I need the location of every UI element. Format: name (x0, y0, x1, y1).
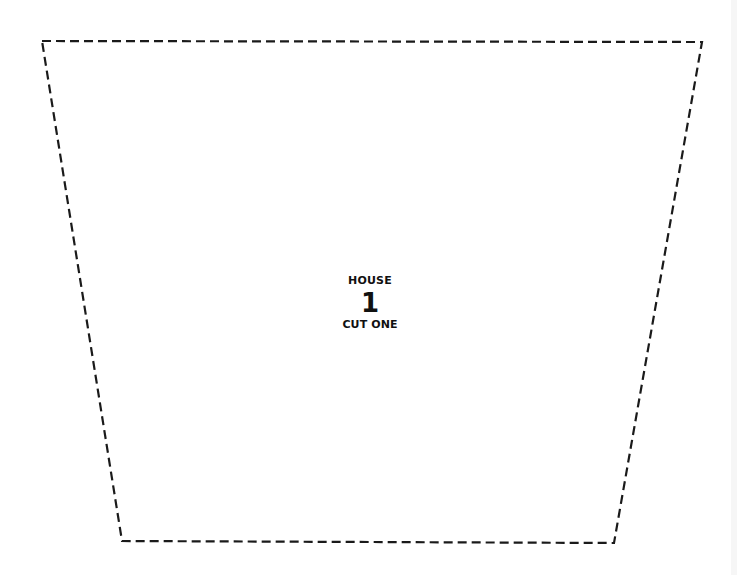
piece-label: HOUSE 1 CUT ONE (318, 274, 422, 332)
printable-template-page: HOUSE 1 CUT ONE (0, 0, 737, 575)
piece-title: HOUSE (318, 274, 422, 288)
cut-instruction: CUT ONE (318, 318, 422, 332)
piece-number: 1 (318, 289, 422, 317)
